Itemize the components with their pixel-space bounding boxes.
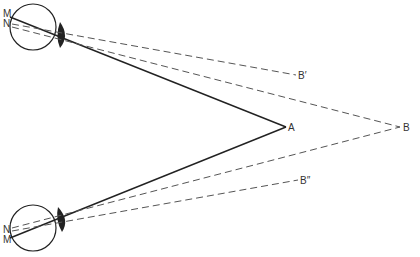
top-eye-label-n: N	[3, 18, 10, 29]
bottom-eye: N M	[3, 127, 400, 251]
bottom-eye-label-m: M	[3, 234, 11, 245]
binocular-diagram: M N N M A B B′ B″	[0, 0, 420, 257]
point-a-label: A	[288, 122, 295, 133]
point-b-label: B	[403, 122, 410, 133]
point-b-double-prime-label: B″	[300, 175, 311, 186]
point-b-prime-label: B′	[298, 70, 307, 81]
top-eye: M N	[3, 4, 400, 127]
